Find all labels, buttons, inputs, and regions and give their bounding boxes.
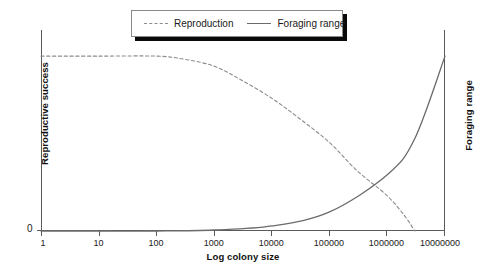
x-tick-label-1000: 1000 [204,238,224,249]
chart-page: 1 10 100 1000 10000 100000 1000000 10000… [0,0,487,274]
x-tick-100000 [329,231,330,236]
x-tick-label-10000: 10000 [259,238,284,249]
x-tick-label-1: 1 [40,238,45,249]
x-tick-label-100: 100 [149,238,164,249]
legend-entry-reproduction: Reproduction [144,18,233,30]
legend-solid-line-icon [247,23,271,24]
x-tick-1 [41,231,42,236]
legend-box: Reproduction Foraging range [131,10,343,37]
legend-label-foraging-range: Foraging range [277,18,345,30]
x-tick-10 [99,231,100,236]
y-axis-right-title: Foraging range [463,51,474,181]
x-tick-1000000 [386,231,387,236]
legend-label-reproduction: Reproduction [174,18,233,30]
y-axis-zero-label: 0 [27,223,33,234]
x-axis-title: Log colony size [41,251,445,262]
x-tick-label-1000000: 1000000 [369,238,404,249]
legend-dashed-line-icon [144,23,168,24]
series-line-foraging-range [41,56,445,231]
x-tick-1000 [214,231,215,236]
x-tick-label-100000: 100000 [314,238,344,249]
x-tick-label-10: 10 [94,238,104,249]
series-plot [41,30,445,231]
series-line-reproduction [41,56,415,231]
x-tick-100 [156,231,157,236]
legend-entry-foraging-range: Foraging range [247,18,345,30]
x-tick-10000 [271,231,272,236]
x-tick-label-10000000: 10000000 [420,238,460,249]
x-tick-10000000 [444,231,445,236]
plot-area: 1 10 100 1000 10000 100000 1000000 10000… [41,30,445,231]
